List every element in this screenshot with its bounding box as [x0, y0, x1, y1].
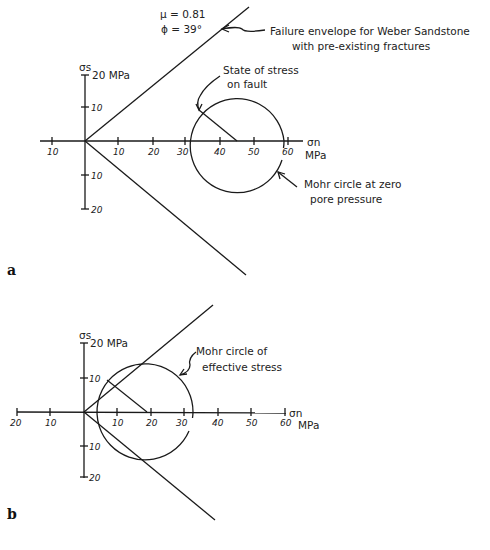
mu-label: μ = 0.81	[160, 8, 206, 20]
panel-b: 20 10 10 20 30 40 50 60 10 10 20 σs 20 M…	[7, 305, 319, 522]
failure-envelope-lower-b	[84, 412, 215, 520]
x-tick-label: 50	[248, 147, 260, 157]
y-tick-label: 20	[91, 205, 103, 215]
x-tick-label: 40	[212, 418, 224, 428]
y-unit-a: 20 MPa	[92, 69, 130, 81]
mohr-diagram: 10 10 20 30 40 50 60 10 10 20 σs 20 MPa …	[0, 0, 490, 550]
x-tick-label: 10	[45, 418, 57, 428]
mohr-circle-a	[190, 99, 284, 193]
x-tick-label: 30	[177, 147, 189, 157]
x-tick-label: 30	[176, 418, 188, 428]
x-tick-label: 60	[282, 147, 294, 157]
x-tick-label: 50	[246, 418, 258, 428]
panel-label-a: a	[7, 262, 16, 278]
envelope-note-2: with pre-existing fractures	[292, 40, 430, 52]
failure-envelope-lower-a	[85, 141, 246, 275]
y-tick-label: 10	[91, 171, 103, 181]
x-axis-label-b: σn	[289, 407, 302, 419]
failure-envelope-upper-b	[84, 305, 213, 412]
y-axis-label-a: σs	[79, 61, 91, 73]
circle-pointer-a	[278, 172, 297, 187]
fault-stress-radius-a	[199, 110, 237, 141]
circle-note-a: Mohr circle at zero	[304, 178, 401, 190]
x-tick-label: 20	[146, 418, 158, 428]
fault-note-2: on fault	[227, 78, 267, 90]
x-tick-label: 40	[214, 147, 226, 157]
phi-label: ϕ = 39°	[161, 23, 202, 35]
y-tick-label: 10	[89, 442, 101, 452]
panel-label-b: b	[7, 506, 17, 522]
circle-note-a-2: pore pressure	[310, 193, 382, 205]
x-unit-a: MPa	[305, 149, 326, 161]
circle-note-b: Mohr circle of	[196, 345, 267, 357]
y-unit-b: 20 MPa	[90, 337, 128, 349]
y-tick-label: 10	[89, 374, 101, 384]
fault-note: State of stress	[223, 64, 299, 76]
fault-stress-radius-b	[107, 380, 147, 412]
y-tick-label: 20	[89, 473, 101, 483]
x-tick-label: 60	[280, 418, 292, 428]
x-tick-label: 10	[112, 418, 124, 428]
panel-a: 10 10 20 30 40 50 60 10 10 20 σs 20 MPa …	[7, 7, 470, 278]
y-tick-label: 10	[91, 103, 103, 113]
x-tick-label: 20	[148, 147, 160, 157]
x-tick-label: 10	[113, 147, 125, 157]
circle-note-b-2: effective stress	[202, 361, 282, 373]
x-axis-label-a: σn	[307, 136, 320, 148]
x-tick-label: 10	[47, 147, 59, 157]
x-unit-b: MPa	[298, 419, 319, 431]
envelope-pointer-a	[222, 28, 265, 32]
envelope-note: Failure envelope for Weber Sandstone	[270, 25, 470, 37]
x-tick-label: 20	[10, 418, 22, 428]
